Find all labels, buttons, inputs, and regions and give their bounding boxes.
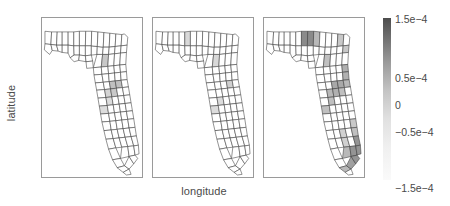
colorbar-tick-3: −0.5e−4	[395, 127, 434, 138]
colorbar	[383, 18, 391, 180]
colorbar-gradient	[383, 18, 391, 180]
florida-map-svg-1	[42, 18, 142, 177]
colorbar-tick-2: 0	[395, 100, 401, 111]
map-panel-3	[263, 17, 365, 178]
x-axis-label: longitude	[42, 185, 366, 197]
florida-map-svg-2	[153, 18, 253, 177]
map-panel-2	[152, 17, 254, 178]
colorbar-tick-4: −1.5e−4	[395, 183, 434, 194]
colorbar-tick-1: 0.5e−4	[395, 73, 427, 84]
figure-canvas: latitude longitude	[0, 0, 450, 206]
map-panel-1	[41, 17, 143, 178]
y-axis-label-text: latitude	[5, 85, 17, 121]
y-axis-label: latitude	[0, 0, 22, 206]
colorbar-tick-0: 1.5e−4	[395, 14, 427, 25]
florida-map-svg-3	[264, 18, 364, 177]
